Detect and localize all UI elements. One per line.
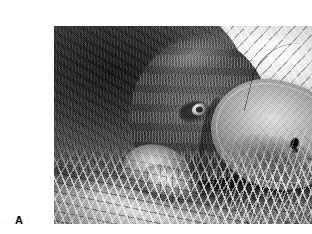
figure-panel: A bbox=[0, 0, 312, 234]
panel-label: A bbox=[15, 214, 23, 227]
platypus-photograph bbox=[54, 26, 312, 224]
grass-foreground-right-texture bbox=[207, 109, 312, 224]
